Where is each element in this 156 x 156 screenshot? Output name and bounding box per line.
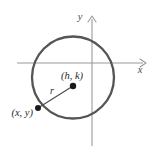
radius-label: r (50, 85, 54, 96)
circle-point-label: (x, y) (11, 107, 33, 119)
x-axis-label: x (137, 64, 143, 75)
center-point-label: (h, k) (61, 70, 84, 82)
circle-point-dot (35, 105, 41, 111)
circle-diagram-figure: x y r (h, k) (x, y) (0, 0, 156, 156)
circle-diagram-canvas: x y r (h, k) (x, y) (0, 0, 156, 156)
y-axis-label: y (77, 11, 83, 22)
center-point-dot (70, 83, 76, 89)
